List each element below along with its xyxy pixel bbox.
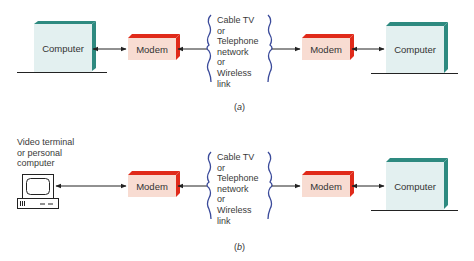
right-computer-b-label: Computer bbox=[394, 181, 436, 192]
left-modem-a: Modem bbox=[128, 38, 176, 60]
right-brace-a bbox=[268, 15, 272, 82]
left-computer-a: Computer bbox=[34, 24, 92, 72]
right-modem-b: Modem bbox=[302, 175, 350, 197]
right-modem-a: Modem bbox=[302, 38, 350, 60]
right-modem-a-label: Modem bbox=[310, 44, 342, 55]
right-computer-a-label: Computer bbox=[394, 44, 436, 55]
left-computer-a-label: Computer bbox=[42, 43, 84, 54]
right-modem-b-label: Modem bbox=[310, 181, 342, 192]
caption-b: (b) bbox=[234, 242, 245, 252]
right-brace-b bbox=[268, 152, 272, 219]
left-modem-a-label: Modem bbox=[136, 44, 168, 55]
caption-a: (a) bbox=[234, 102, 245, 112]
left-modem-b: Modem bbox=[128, 175, 176, 197]
network-b-label: Cable TV or Telephone network or Wireles… bbox=[217, 152, 259, 226]
left-brace-a bbox=[207, 15, 211, 82]
terminal-label: Video terminal or personal computer bbox=[17, 137, 74, 169]
left-brace-b bbox=[207, 152, 211, 219]
terminal-icon bbox=[18, 175, 59, 209]
right-computer-b: Computer bbox=[386, 162, 444, 210]
network-a-label: Cable TV or Telephone network or Wireles… bbox=[217, 15, 259, 89]
left-modem-b-label: Modem bbox=[136, 181, 168, 192]
right-computer-a: Computer bbox=[386, 26, 444, 73]
